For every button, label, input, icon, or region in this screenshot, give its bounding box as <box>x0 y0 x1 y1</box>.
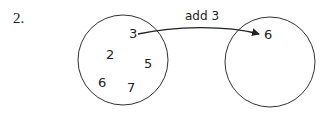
domain-set-circle <box>78 15 168 105</box>
mapping-diagram: 3 2 5 6 7 6 add 3 <box>0 0 333 115</box>
domain-element: 3 <box>129 26 137 41</box>
domain-element: 2 <box>106 47 114 62</box>
mapping-label: add 3 <box>185 9 219 23</box>
domain-element: 7 <box>127 80 135 95</box>
domain-element: 6 <box>98 75 106 90</box>
mapping-arrow <box>138 28 259 34</box>
range-element: 6 <box>264 27 272 42</box>
domain-element: 5 <box>144 56 152 71</box>
